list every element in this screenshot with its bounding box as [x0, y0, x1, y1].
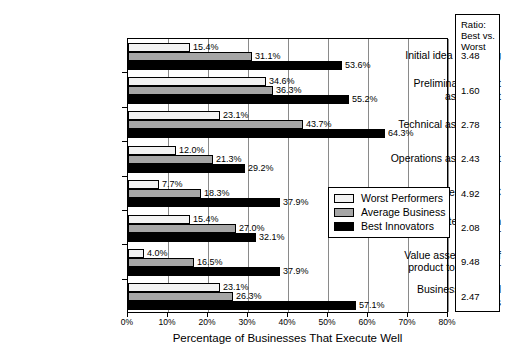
x-axis-tick-label: 60%: [347, 318, 387, 327]
ratio-value: 9.48: [461, 257, 480, 267]
bar-value-label: 64.3%: [388, 129, 414, 138]
legend-item-best-innovators: Best Innovators: [334, 220, 444, 233]
x-axis-tick-label: 30%: [227, 318, 267, 327]
ratio-header-line-1: Ratio:: [461, 19, 495, 30]
bar-value-label: 37.9%: [283, 198, 309, 207]
bar-value-label: 29.2%: [248, 164, 274, 173]
bar-avg: [128, 224, 236, 233]
bar-value-label: 32.1%: [259, 233, 285, 242]
ratio-value: 1.60: [461, 86, 480, 96]
ratio-panel-header: Ratio: Best vs. Worst: [461, 19, 495, 52]
bar-value-label: 4.0%: [147, 249, 168, 258]
bar-value-label: 12.0%: [179, 146, 205, 155]
bar-best: [128, 164, 245, 173]
ratio-value: 4.92: [461, 189, 480, 199]
bar-best: [128, 198, 280, 207]
legend-swatch-best-innovators: [334, 222, 354, 231]
bar-value-label: 16.5%: [197, 258, 223, 267]
bar-worst: [128, 77, 266, 86]
y-axis-tick: [122, 176, 127, 177]
bar-chart: 15.4%31.1%53.6%34.6%36.3%55.2%23.1%43.7%…: [0, 0, 506, 356]
bar-avg: [128, 120, 303, 129]
y-axis-tick: [122, 141, 127, 142]
bar-worst: [128, 283, 220, 292]
bar-value-label: 55.2%: [352, 95, 378, 104]
ratio-value: 2.47: [461, 292, 480, 302]
x-axis-tick-label: 50%: [307, 318, 347, 327]
bar-best: [128, 61, 342, 70]
legend-label-average-business: Average Business: [361, 207, 445, 218]
ratio-header-line-2: Best vs.: [461, 30, 495, 41]
bar-worst: [128, 180, 159, 189]
y-axis-tick: [122, 72, 127, 73]
x-axis-tick-label: 70%: [387, 318, 427, 327]
bar-value-label: 21.3%: [216, 155, 242, 164]
bar-best: [128, 267, 280, 276]
bar-avg: [128, 52, 252, 61]
x-axis-title: Percentage of Businesses That Execute We…: [127, 332, 448, 344]
bar-value-label: 43.7%: [306, 120, 332, 129]
legend-label-best-innovators: Best Innovators: [361, 221, 434, 232]
bar-value-label: 18.3%: [204, 189, 230, 198]
bar-value-label: 53.6%: [345, 61, 371, 70]
y-axis-tick: [122, 279, 127, 280]
bar-value-label: 37.9%: [283, 267, 309, 276]
bar-worst: [128, 215, 190, 224]
ratio-value: 2.43: [461, 154, 480, 164]
chart-legend: Worst Performers Average Business Best I…: [328, 187, 450, 238]
y-axis-tick: [122, 107, 127, 108]
legend-swatch-worst-performers: [334, 194, 354, 203]
bar-worst: [128, 111, 220, 120]
bar-value-label: 36.3%: [276, 86, 302, 95]
legend-swatch-average-business: [334, 208, 354, 217]
x-axis-tick-label: 20%: [187, 318, 227, 327]
bar-best: [128, 301, 356, 310]
bar-value-label: 31.1%: [255, 52, 281, 61]
bar-value-label: 23.1%: [223, 111, 249, 120]
bar-avg: [128, 258, 194, 267]
ratio-panel: Ratio: Best vs. Worst 3.481.602.782.434.…: [455, 14, 500, 312]
bar-best: [128, 129, 385, 138]
x-axis-tick-label: 0%: [107, 318, 147, 327]
legend-label-worst-performers: Worst Performers: [361, 193, 443, 204]
bar-avg: [128, 86, 273, 95]
y-axis-tick: [122, 210, 127, 211]
ratio-value: 2.08: [461, 223, 480, 233]
bar-value-label: 15.4%: [193, 43, 219, 52]
bar-worst: [128, 146, 176, 155]
bar-value-label: 7.7%: [162, 180, 183, 189]
ratio-value: 3.48: [461, 51, 480, 61]
y-axis-tick: [122, 244, 127, 245]
bar-best: [128, 233, 256, 242]
bar-best: [128, 95, 349, 104]
ratio-value: 2.78: [461, 120, 480, 130]
x-axis-tick-label: 10%: [147, 318, 187, 327]
bar-avg: [128, 292, 233, 301]
bar-value-label: 26.3%: [236, 292, 262, 301]
x-axis-tick-label: 40%: [267, 318, 307, 327]
bar-worst: [128, 43, 190, 52]
bar-avg: [128, 155, 213, 164]
legend-item-average-business: Average Business: [334, 206, 444, 219]
legend-item-worst-performers: Worst Performers: [334, 192, 444, 205]
x-axis-tick-label: 80%: [427, 318, 467, 327]
bar-value-label: 15.4%: [193, 215, 219, 224]
bar-avg: [128, 189, 201, 198]
bar-worst: [128, 249, 144, 258]
